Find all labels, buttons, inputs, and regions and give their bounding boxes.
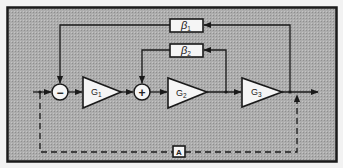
- g1-subscript: 1: [98, 91, 102, 98]
- g2-label: G: [176, 88, 183, 98]
- beta2-subscript: 2: [187, 50, 191, 57]
- feedforward-block-a: A: [173, 146, 185, 157]
- g1-label: G: [91, 87, 98, 97]
- beta1-subscript: 1: [187, 25, 191, 32]
- feedback-block-beta2: β2: [170, 44, 203, 57]
- minus-sign: −: [56, 86, 63, 100]
- summing-junction-minus: −: [52, 84, 68, 100]
- feedback-block-diagram: − + G1 G2 G3 β1 β2: [0, 0, 343, 168]
- a-label: A: [176, 148, 182, 157]
- plus-sign: +: [138, 86, 145, 100]
- feedback-block-beta1: β1: [170, 19, 203, 32]
- g2-subscript: 2: [183, 92, 187, 99]
- g3-label: G: [251, 87, 258, 97]
- g3-subscript: 3: [258, 91, 262, 98]
- summing-junction-plus: +: [134, 84, 150, 100]
